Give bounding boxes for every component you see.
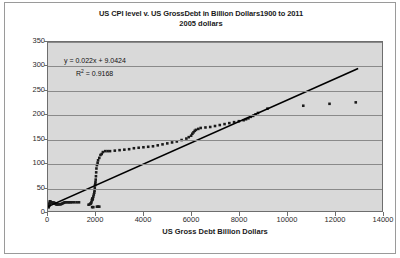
y-tick-label: 200 [11,110,45,118]
data-point-marker [78,201,81,204]
gridline-horizontal [48,189,382,190]
chart-subtitle: 2005 dollars [5,19,397,29]
gridline-horizontal [48,164,382,165]
data-point-marker [171,141,174,144]
data-point-marker [94,181,97,184]
data-point-marker [133,147,136,150]
data-point-marker [98,205,101,208]
y-tick-label: 250 [11,86,45,94]
data-point-marker [137,146,140,149]
data-point-marker [73,201,76,204]
x-tick-mark [47,212,48,216]
y-tick-label: 150 [11,135,45,143]
trendline-equation-annotation: y = 0.022x + 9.0424 R2 = 0.9168 [64,56,126,79]
x-tick-label: 8000 [219,215,259,224]
x-axis-title: US Gross Debt Billion Dollars [47,227,383,236]
x-tick-mark [335,212,336,216]
data-point-marker [95,167,98,170]
x-tick-mark [383,212,384,216]
data-point-marker [302,104,305,107]
trendline-equation: y = 0.022x + 9.0424 [64,56,126,66]
y-tick-label: 50 [11,184,45,192]
x-tick-label: 10000 [267,215,307,224]
data-point-marker [118,149,121,152]
x-tick-label: 0 [27,215,67,224]
data-point-marker [114,149,117,152]
gridline-horizontal [48,91,382,92]
data-point-marker [152,145,155,148]
gridline-horizontal [48,140,382,141]
y-tick-label: 100 [11,159,45,167]
data-point-marker [142,146,145,149]
data-point-marker [204,126,207,129]
data-point-marker [94,178,97,181]
y-tick-label: 350 [11,37,45,45]
data-point-marker [123,148,126,151]
chart-container: US CPI level v. US GrossDebt in Billion … [4,2,396,254]
data-point-marker [187,136,190,139]
x-tick-label: 12000 [315,215,355,224]
data-point-marker [98,157,101,160]
data-point-marker [147,145,150,148]
data-point-marker [228,122,231,125]
data-point-marker [104,150,107,153]
data-point-marker [223,123,226,126]
chart-title: US CPI level v. US GrossDebt in Billion … [5,9,397,19]
data-point-marker [106,150,109,153]
gridline-horizontal [48,66,382,67]
data-point-marker [354,101,357,104]
data-point-marker [328,103,331,106]
chart-title-block: US CPI level v. US GrossDebt in Billion … [5,9,397,29]
data-point-marker [75,201,78,204]
r-squared-value: R2 = 0.9168 [64,66,126,79]
gridline-horizontal [48,115,382,116]
data-point-marker [128,148,131,151]
x-tick-label: 14000 [363,215,400,224]
x-tick-mark [95,212,96,216]
data-point-marker [71,201,74,204]
x-tick-mark [191,212,192,216]
r-number: = 0.9168 [84,70,113,77]
data-point-marker [197,128,200,131]
data-point-marker [161,143,164,146]
data-point-marker [195,129,198,132]
data-point-marker [209,126,212,129]
data-point-marker [102,151,105,154]
data-point-marker [109,150,112,153]
data-point-marker [199,127,202,130]
y-tick-label: 300 [11,61,45,69]
data-point-marker [92,206,95,209]
x-tick-mark [287,212,288,216]
gridline-horizontal [48,42,382,43]
trendline [48,69,358,207]
data-point-marker [214,125,217,128]
data-point-marker [95,175,98,178]
plot-area: y = 0.022x + 9.0424 R2 = 0.9168 [47,41,383,212]
data-point-marker [218,124,221,127]
x-tick-mark [143,212,144,216]
data-point-marker [166,142,169,145]
x-tick-mark [239,212,240,216]
data-point-marker [156,144,159,147]
x-tick-label: 2000 [75,215,115,224]
x-tick-label: 4000 [123,215,163,224]
data-point-marker [97,159,100,162]
data-point-marker [95,171,98,174]
y-axis-title: US CPI [0,88,1,113]
x-tick-label: 6000 [171,215,211,224]
